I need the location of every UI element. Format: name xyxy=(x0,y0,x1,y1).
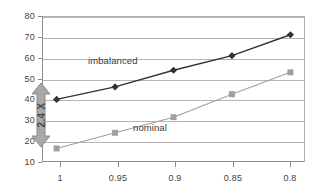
x-tick-label-085: 0.85 xyxy=(224,173,242,183)
x-tickmark-1 xyxy=(60,162,61,167)
x-tickmark-085 xyxy=(233,162,234,167)
x-tickmark-095 xyxy=(118,162,119,167)
gridline-20 xyxy=(43,142,304,143)
y-tickmark-70 xyxy=(38,37,42,38)
x-tick-label-09: 0.9 xyxy=(168,173,181,183)
y-tick-label-60: 60 xyxy=(25,53,35,63)
gridline-60 xyxy=(43,59,304,60)
gridline-40 xyxy=(43,100,304,101)
x-tick-label-095: 0.95 xyxy=(109,173,127,183)
series-label-nominal: nominal xyxy=(133,122,167,133)
x-tick-label-08: 0.8 xyxy=(283,173,296,183)
plot-area xyxy=(42,16,305,162)
x-axis: 1 0.95 0.9 0.85 0.8 xyxy=(0,162,316,192)
ratio-annotation-label: 2.4 X xyxy=(36,103,47,128)
gridline-70 xyxy=(43,38,304,39)
y-tick-label-70: 70 xyxy=(25,32,35,42)
y-tickmark-80 xyxy=(38,16,42,17)
x-tick-label-1: 1 xyxy=(57,173,62,183)
x-tickmark-09 xyxy=(175,162,176,167)
gridline-50 xyxy=(43,80,304,81)
y-tickmark-50 xyxy=(38,79,42,80)
ratio-annotation: 2.4 X xyxy=(30,83,52,147)
y-tickmark-60 xyxy=(38,58,42,59)
x-tickmark-08 xyxy=(290,162,291,167)
y-tick-label-80: 80 xyxy=(25,11,35,21)
gridline-30 xyxy=(43,121,304,122)
line-chart: 80 70 60 50 40 30 20 10 1 0.95 0.9 0.85 … xyxy=(0,0,316,192)
series-label-imbalanced: imbalanced xyxy=(88,55,138,66)
gridline-80 xyxy=(43,17,304,18)
